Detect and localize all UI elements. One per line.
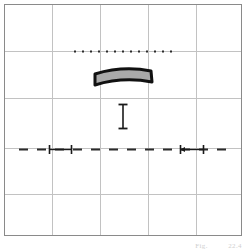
vertical-dimension-marker: [119, 104, 128, 129]
right-dimension-span: [180, 145, 204, 154]
figure-frame: [4, 4, 242, 236]
figure-canvas: Fig. 22.4: [0, 0, 246, 250]
grid-line-horizontal-4: [5, 194, 241, 195]
figure-caption: Fig. 22.4: [195, 242, 242, 250]
caption-number: 22.4: [228, 242, 242, 250]
grid-line-vertical-1: [52, 5, 53, 235]
caption-label: Fig.: [195, 242, 208, 250]
grid-line-horizontal-3: [5, 148, 241, 149]
grid-line-vertical-3: [148, 5, 149, 235]
curved-bar: [95, 69, 152, 85]
grid-line-vertical-2: [100, 5, 101, 235]
diagram-overlay: [5, 5, 243, 237]
grid-line-horizontal-1: [5, 51, 241, 52]
grid-line-vertical-4: [196, 5, 197, 235]
grid-line-horizontal-2: [5, 98, 241, 99]
